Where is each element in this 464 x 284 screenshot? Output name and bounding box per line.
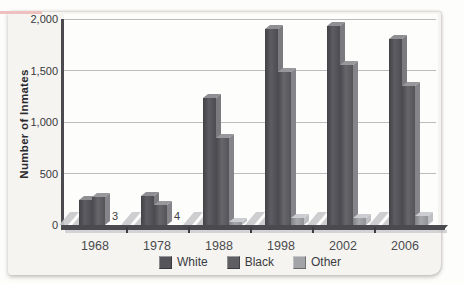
y-tick-label: 0 — [10, 219, 58, 231]
y-axis-line — [61, 19, 65, 230]
legend-item-white: White — [159, 255, 208, 269]
bar-side-face — [415, 82, 420, 225]
bar-front-face — [79, 200, 92, 225]
y-tick-label: 500 — [10, 168, 58, 180]
bar-other-2002 — [353, 214, 371, 225]
bar-side-face — [353, 61, 358, 225]
x-axis-tick — [312, 227, 314, 233]
legend-swatch-white-icon — [159, 256, 172, 269]
y-tick-label: 1,500 — [10, 65, 58, 77]
y-tick-label: 1,000 — [10, 116, 58, 128]
grid-line — [64, 122, 436, 123]
bar-front-face — [327, 26, 340, 225]
x-axis-floor — [65, 230, 447, 233]
grid-line — [64, 70, 436, 71]
page: { "chart_data": { "type": "bar", "style_… — [0, 0, 464, 284]
bar-other-2006 — [415, 212, 433, 225]
pink-rule-fragment — [0, 11, 42, 14]
data-label-other-1968: 3 — [112, 210, 132, 222]
bar-front-face — [340, 65, 353, 225]
plot-area — [64, 14, 438, 233]
legend-label: White — [177, 255, 208, 269]
bar-front-face — [203, 98, 216, 225]
y-tick-label: 2,000 — [10, 13, 58, 25]
bar-black-1968 — [92, 193, 110, 225]
chart-card: Number of Inmates 05001,0001,5002,000 34… — [8, 11, 441, 275]
bar-front-face — [415, 216, 428, 225]
legend-item-black: Black — [227, 255, 274, 269]
x-axis-tick — [126, 227, 128, 233]
legend-swatch-other-icon — [293, 256, 306, 269]
bar-other-1988 — [229, 218, 247, 225]
bar-black-1988 — [216, 134, 234, 225]
bar-black-1978 — [154, 201, 172, 225]
legend-item-other: Other — [293, 255, 341, 269]
data-label-other-1978: 4 — [174, 210, 194, 222]
legend-label: Black — [245, 255, 274, 269]
x-category-label: 1988 — [188, 239, 250, 253]
x-category-label: 2006 — [374, 239, 436, 253]
bar-front-face — [154, 205, 167, 225]
bar-black-1998 — [278, 68, 296, 225]
x-category-label: 2002 — [312, 239, 374, 253]
x-axis-tick — [250, 227, 252, 233]
bar-front-face — [402, 86, 415, 225]
x-category-label: 1998 — [250, 239, 312, 253]
bar-front-face — [278, 72, 291, 225]
x-axis-tick — [374, 227, 376, 233]
bar-side-face — [291, 68, 296, 225]
bar-black-2006 — [402, 82, 420, 225]
grid-line — [64, 19, 436, 20]
bar-front-face — [229, 222, 242, 225]
bar-black-2002 — [340, 61, 358, 225]
legend-swatch-black-icon — [227, 256, 240, 269]
bar-side-face — [229, 134, 234, 225]
bar-front-face — [265, 29, 278, 225]
grid-line — [64, 173, 436, 174]
bar-front-face — [353, 218, 366, 225]
bar-front-face — [216, 138, 229, 225]
bar-front-face — [92, 197, 105, 225]
x-axis-tick — [188, 227, 190, 233]
bar-front-face — [389, 39, 402, 225]
bar-front-face — [291, 218, 304, 225]
bar-side-face — [105, 193, 110, 225]
bar-other-1998 — [291, 214, 309, 225]
x-category-label: 1968 — [64, 239, 126, 253]
legend: WhiteBlackOther — [64, 255, 436, 269]
legend-label: Other — [311, 255, 341, 269]
bar-front-face — [141, 196, 154, 225]
x-category-label: 1978 — [126, 239, 188, 253]
